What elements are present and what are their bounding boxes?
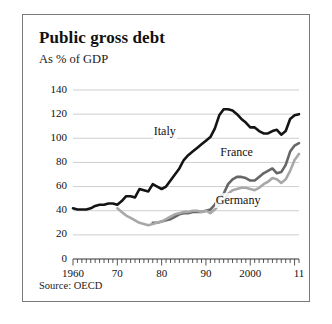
chart-x-axis-ticks xyxy=(73,259,299,266)
series-label-germany: Germany xyxy=(215,193,262,208)
x-tick-label: 11 xyxy=(294,267,305,279)
series-label-italy: Italy xyxy=(153,124,177,139)
x-tick-label: 1960 xyxy=(62,267,84,279)
x-tick-label: 90 xyxy=(200,267,211,279)
y-tick-label: 20 xyxy=(33,227,67,239)
y-tick-label: 40 xyxy=(33,203,67,215)
x-tick-label: 70 xyxy=(112,267,123,279)
chart-card: Public gross debt As % of GDP 0204060801… xyxy=(22,14,310,302)
chart-gridlines xyxy=(73,90,299,259)
y-tick-label: 100 xyxy=(33,131,67,143)
series-line-italy xyxy=(73,109,299,209)
chart-series-lines xyxy=(73,109,299,225)
y-tick-label: 120 xyxy=(33,107,67,119)
x-tick-label: 2000 xyxy=(239,267,261,279)
x-tick-label: 80 xyxy=(156,267,167,279)
y-tick-label: 0 xyxy=(33,252,67,264)
y-tick-label: 140 xyxy=(33,83,67,95)
source-note: Source: OECD xyxy=(39,280,102,291)
series-label-france: France xyxy=(219,145,254,160)
y-tick-label: 60 xyxy=(33,179,67,191)
y-tick-label: 80 xyxy=(33,155,67,167)
